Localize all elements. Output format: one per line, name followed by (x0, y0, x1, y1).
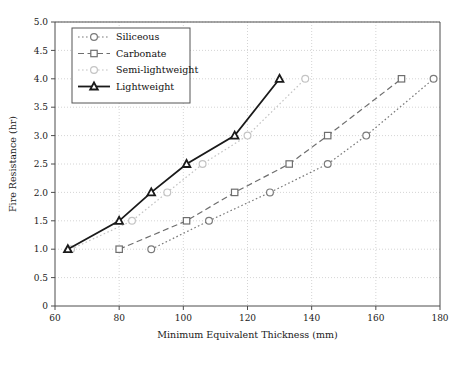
x-tick-label: 100 (175, 313, 192, 323)
data-point-circle-marker (164, 189, 171, 196)
data-point-circle-marker (302, 75, 309, 82)
data-point-circle-marker (91, 67, 98, 74)
data-point-square-marker (398, 76, 404, 82)
x-tick-label: 180 (431, 313, 448, 323)
data-point-square-marker (91, 50, 97, 56)
fire-resistance-chart: 00.51.01.52.02.53.03.54.04.55.0608010012… (0, 0, 463, 371)
x-axis-label: Minimum Equivalent Thickness (mm) (157, 329, 337, 340)
data-point-circle-marker (148, 246, 155, 253)
y-tick-label: 1.5 (34, 216, 49, 226)
y-tick-label: 3.5 (34, 102, 49, 112)
legend-label: Siliceous (116, 31, 159, 42)
y-tick-label: 0.5 (34, 273, 49, 283)
legend-label: Semi-lightweight (116, 64, 198, 75)
data-point-circle-marker (129, 217, 136, 224)
data-point-circle-marker (91, 34, 98, 41)
y-tick-label: 2.0 (34, 188, 49, 198)
x-tick-label: 60 (49, 313, 61, 323)
y-tick-label: 3.0 (34, 131, 49, 141)
chart-canvas: 00.51.01.52.02.53.03.54.04.55.0608010012… (0, 0, 463, 371)
legend-label: Carbonate (116, 48, 167, 59)
y-tick-label: 4.5 (34, 46, 49, 56)
y-tick-label: 4.0 (34, 74, 49, 84)
y-axis-label: Fire Resistance (hr) (7, 116, 18, 212)
data-point-circle-marker (244, 132, 251, 139)
x-tick-label: 160 (367, 313, 384, 323)
data-point-circle-marker (324, 161, 331, 168)
data-point-square-marker (286, 161, 292, 167)
data-point-circle-marker (430, 75, 437, 82)
data-point-square-marker (116, 246, 122, 252)
data-point-circle-marker (206, 217, 213, 224)
x-tick-label: 120 (239, 313, 256, 323)
data-point-circle-marker (363, 132, 370, 139)
data-point-square-marker (231, 189, 237, 195)
x-tick-label: 80 (113, 313, 125, 323)
x-tick-label: 140 (303, 313, 320, 323)
y-tick-label: 0 (42, 301, 48, 311)
y-tick-label: 5.0 (34, 17, 49, 27)
legend-label: Lightweight (116, 81, 174, 92)
data-point-circle-marker (267, 189, 274, 196)
legend: SiliceousCarbonateSemi-lightweightLightw… (72, 28, 198, 103)
y-tick-label: 2.5 (34, 159, 49, 169)
data-point-square-marker (183, 218, 189, 224)
data-point-square-marker (325, 132, 331, 138)
data-point-circle-marker (199, 161, 206, 168)
y-tick-label: 1.0 (34, 244, 49, 254)
